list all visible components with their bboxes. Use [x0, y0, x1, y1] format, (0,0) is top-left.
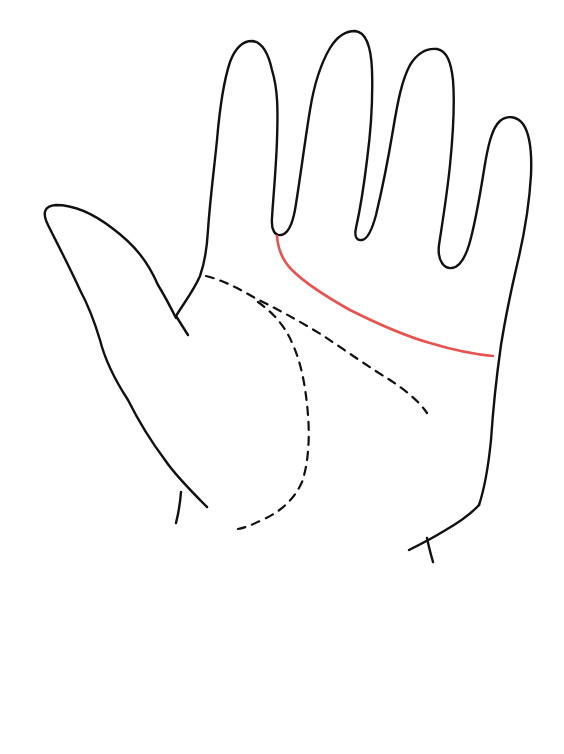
fingers-outline [176, 31, 531, 505]
palm-diagram: heart line [0, 0, 564, 754]
right-wrist-line [409, 505, 479, 550]
heart-line [277, 236, 493, 356]
thumb-crease [176, 316, 188, 335]
life-line [238, 302, 309, 529]
left-wrist-tick [176, 492, 181, 523]
right-wrist-tick [427, 538, 433, 562]
palm-illustration [0, 0, 564, 754]
hand-outline [45, 205, 207, 507]
head-line [206, 276, 427, 413]
